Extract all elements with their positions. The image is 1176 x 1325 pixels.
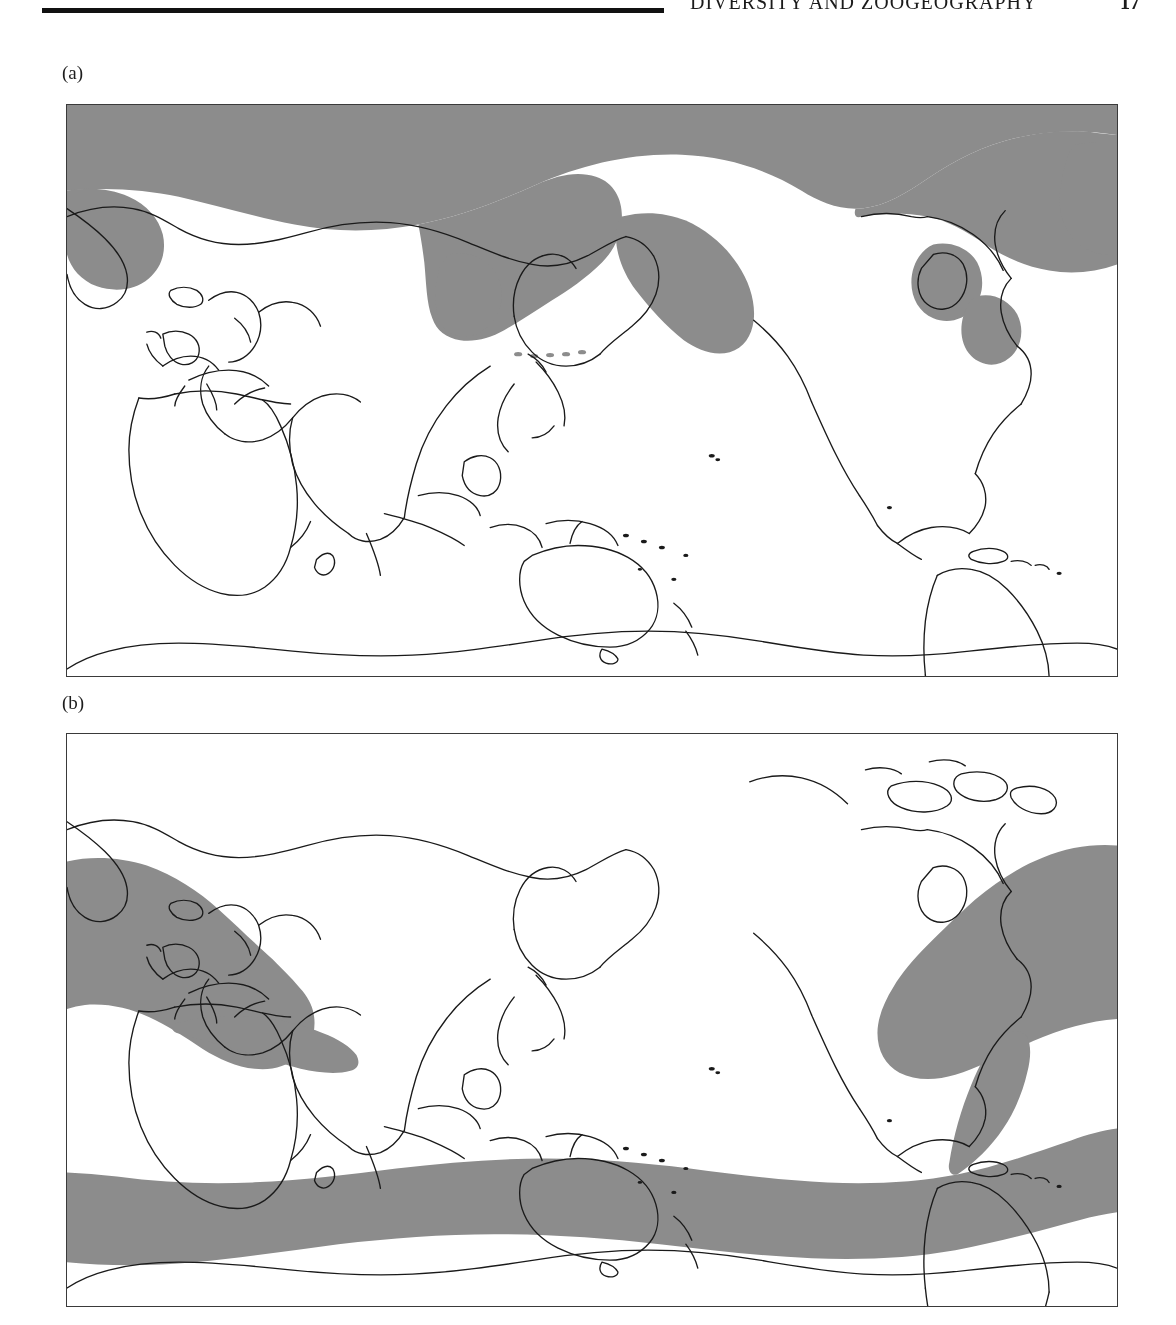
map-panel-a: [66, 104, 1118, 677]
running-head-title: DIVERSITY AND ZOOGEOGRAPHY: [690, 0, 1037, 14]
map-panel-b: [66, 733, 1118, 1307]
panel-label-b: (b): [62, 692, 84, 714]
header-rule: [42, 8, 664, 13]
world-map-a: [67, 105, 1117, 676]
running-head: DIVERSITY AND ZOOGEOGRAPHY 17: [0, 0, 1176, 22]
page-number: 17: [1120, 0, 1140, 14]
panel-label-a: (a): [62, 62, 83, 84]
world-map-b: [67, 734, 1117, 1306]
